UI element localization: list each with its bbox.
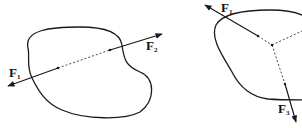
line-of-action-dotted [272,45,285,84]
force-f1-label: F1 [221,0,233,16]
force-diagram: F1 F2 F1 F3 [0,0,302,128]
point-of-application [284,83,286,85]
point-of-application [257,35,259,37]
point-of-application [109,49,112,52]
line-of-action-dotted [58,50,110,68]
force-f1-label: F1 [9,65,21,81]
line-of-action-dotted [258,36,272,45]
line-of-action-dotted [272,31,302,45]
body-outline-right [214,10,302,100]
point-of-application [57,67,60,70]
three-force-body: F1 F3 [205,0,302,122]
force-f2-label: F2 [146,38,158,54]
concurrency-point [271,44,274,47]
force-f3-label: F3 [278,101,290,117]
two-force-body: F1 F2 [8,27,162,118]
